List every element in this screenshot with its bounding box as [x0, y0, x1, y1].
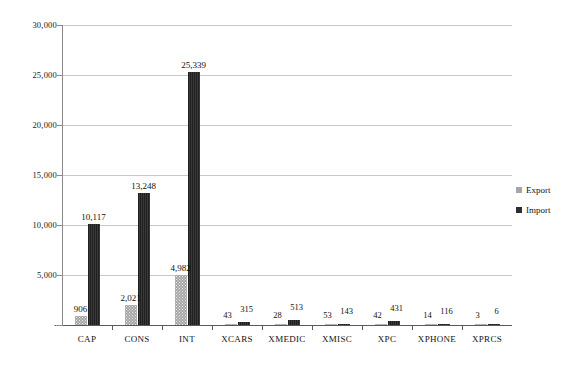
x-axis-label-xcars: XCARS — [221, 334, 253, 344]
x-axis-tick — [362, 325, 363, 330]
bar-export-xprcs — [475, 324, 487, 325]
bar-export-int — [175, 275, 187, 325]
bar-export-xpc — [375, 324, 387, 325]
bar-export-cons — [125, 305, 137, 325]
gridline — [62, 225, 512, 226]
bar-export-xmisc — [325, 324, 337, 325]
data-label-import-cons: 13,248 — [131, 181, 156, 191]
plot-area: 90610,1172,02113,2484,98225,339433152851… — [62, 25, 512, 325]
bar-export-xphone — [425, 324, 437, 325]
y-axis-tick-label: 20,000 — [5, 120, 57, 130]
x-axis-tick — [262, 325, 263, 330]
gridline — [62, 25, 512, 26]
x-axis-tick — [462, 325, 463, 330]
bar-export-xcars — [225, 324, 237, 325]
data-label-export-xpc: 42 — [373, 310, 382, 320]
x-axis-label-cap: CAP — [78, 334, 96, 344]
x-axis-line — [62, 325, 512, 326]
bar-export-xmedic — [275, 324, 287, 325]
bar-import-xprcs — [488, 324, 500, 325]
y-axis-tick-label: 30,000 — [5, 20, 57, 30]
legend-swatch-icon — [516, 207, 522, 213]
legend-item-label: Import — [526, 205, 551, 215]
bar-chart: -5,00010,00015,00020,00025,00030,000 906… — [0, 0, 563, 365]
data-label-import-xmisc: 143 — [340, 306, 353, 316]
y-axis-labels: -5,00010,00015,00020,00025,00030,000 — [0, 0, 57, 365]
bar-import-cons — [138, 193, 150, 325]
x-axis-tick — [112, 325, 113, 330]
y-axis-tick-label: 5,000 — [5, 270, 57, 280]
bar-import-int — [188, 72, 200, 325]
bar-import-xpc — [388, 321, 400, 325]
chart-legend: ExportImport — [516, 180, 563, 220]
bar-import-xmisc — [338, 324, 350, 325]
bar-export-cap — [75, 316, 87, 325]
data-label-export-xmisc: 53 — [323, 310, 332, 320]
y-axis-tick — [57, 325, 63, 326]
data-label-export-cap: 906 — [74, 304, 88, 314]
y-axis-tick — [57, 175, 63, 176]
gridline — [62, 275, 512, 276]
data-label-import-xprcs: 6 — [494, 306, 498, 316]
data-label-export-cons: 2,021 — [120, 293, 140, 303]
data-label-import-xphone: 116 — [440, 306, 452, 316]
y-axis-tick-label: - — [5, 320, 57, 330]
x-axis-tick — [312, 325, 313, 330]
y-axis-tick-label: 10,000 — [5, 220, 57, 230]
bar-import-xmedic — [288, 320, 300, 325]
data-label-export-xcars: 43 — [223, 310, 232, 320]
x-axis-tick — [212, 325, 213, 330]
gridline — [62, 125, 512, 126]
x-axis-label-xmedic: XMEDIC — [268, 334, 305, 344]
y-axis-tick — [57, 225, 63, 226]
y-axis-tick — [57, 275, 63, 276]
data-label-import-xpc: 431 — [390, 303, 403, 313]
bar-import-xphone — [438, 324, 450, 325]
data-label-import-xmedic: 513 — [290, 302, 303, 312]
data-label-import-xcars: 315 — [240, 304, 253, 314]
x-axis-tick — [162, 325, 163, 330]
x-axis-label-xpc: XPC — [378, 334, 396, 344]
data-label-export-int: 4,982 — [170, 263, 190, 273]
data-label-export-xprcs: 3 — [475, 310, 479, 320]
data-label-export-xphone: 14 — [423, 310, 432, 320]
legend-swatch-icon — [516, 187, 522, 193]
y-axis-tick — [57, 75, 63, 76]
x-axis-label-xmisc: XMISC — [322, 334, 352, 344]
data-label-import-int: 25,339 — [181, 60, 206, 70]
bar-import-xcars — [238, 322, 250, 325]
data-label-import-cap: 10,117 — [81, 212, 105, 222]
x-axis-label-int: INT — [179, 334, 195, 344]
x-axis-label-xphone: XPHONE — [418, 334, 456, 344]
x-axis-tick — [412, 325, 413, 330]
legend-item-import[interactable]: Import — [516, 200, 563, 220]
gridline — [62, 175, 512, 176]
x-axis-label-xprcs: XPRCS — [472, 334, 502, 344]
y-axis-tick — [57, 25, 63, 26]
data-label-export-xmedic: 28 — [273, 310, 282, 320]
bar-import-cap — [88, 224, 100, 325]
x-axis-label-cons: CONS — [124, 334, 149, 344]
y-axis-tick-label: 25,000 — [5, 70, 57, 80]
y-axis-tick-label: 15,000 — [5, 170, 57, 180]
gridline — [62, 75, 512, 76]
y-axis-tick — [57, 125, 63, 126]
legend-item-label: Export — [526, 185, 551, 195]
legend-item-export[interactable]: Export — [516, 180, 563, 200]
